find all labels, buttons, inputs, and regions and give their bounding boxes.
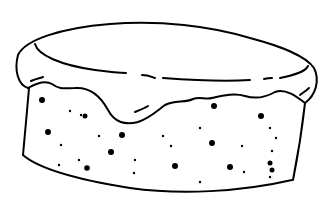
frosting-rim-left xyxy=(35,44,126,73)
frosting-highlight-right xyxy=(300,88,309,95)
frosting-rim-dash-2 xyxy=(264,78,272,79)
frosting-highlight-left xyxy=(31,77,43,81)
frosting-highlight-drip xyxy=(135,106,148,112)
cake-side-left xyxy=(23,88,29,155)
frosting-rim-center xyxy=(163,78,250,81)
cake-bottom xyxy=(23,155,292,192)
cake-drawing xyxy=(0,0,325,213)
cake-side-right xyxy=(293,103,305,180)
frosting-rim-dash-1 xyxy=(142,75,155,78)
frosting-rim-right xyxy=(280,66,308,78)
cake-illustration xyxy=(0,0,325,213)
